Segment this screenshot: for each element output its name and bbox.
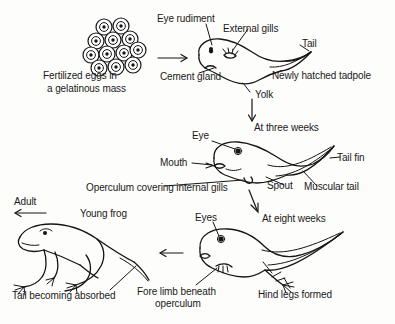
eggs-caption-line1: Fertilized eggs in [43, 70, 117, 82]
young-frog-figure [14, 224, 149, 295]
egg-mass-group [83, 18, 146, 76]
label-eye-rudiment: Eye rudiment [157, 13, 215, 25]
label-eyes: Eyes [195, 212, 217, 224]
arrow-eight-weeks-to-young-frog-icon [160, 250, 183, 257]
external-gills-tuft [223, 48, 238, 58]
egg-12 [125, 57, 141, 73]
label-tail: Tail [302, 38, 317, 50]
label-eye: Eye [192, 130, 209, 142]
label-external-gills: External gills [223, 23, 278, 35]
eggs-caption-line2: a gelatinous mass [47, 83, 126, 95]
label-yolk: Yolk [255, 89, 273, 101]
label-cement-gland: Cement gland [160, 71, 221, 83]
label-adult: Adult [14, 196, 36, 208]
label-mouth: Mouth [160, 157, 187, 169]
frog-life-cycle-diagram: Fertilized eggs in a gelatinous mass Eye… [0, 0, 395, 324]
label-at-three-weeks: At three weeks [254, 122, 319, 134]
label-operculum-covering-internal-gills: Operculum covering internal gills [86, 182, 228, 194]
arrow-hatchling-to-three-weeks-icon [249, 99, 256, 121]
label-spout: Spout [267, 180, 293, 192]
young-frog-leader-lines [110, 266, 136, 290]
egg-9 [130, 42, 146, 58]
label-tail-fin: Tail fin [337, 152, 365, 164]
arrow-young-frog-to-adult-icon [15, 210, 46, 217]
arrow-three-weeks-to-eight-weeks-icon [249, 190, 258, 212]
label-hind-legs-formed: Hind legs formed [258, 289, 332, 301]
arrow-eggs-to-hatchling-icon [158, 55, 187, 62]
label-fore-limb-line1: Fore limb beneath [137, 286, 216, 298]
diagram-artwork [0, 0, 395, 324]
label-at-eight-weeks: At eight weeks [262, 213, 326, 225]
label-young-frog: Young frog [80, 208, 127, 220]
label-newly-hatched-tadpole: Newly hatched tadpole [272, 70, 371, 82]
label-tail-becoming-absorbed: Tail becoming absorbed [12, 290, 115, 302]
eight-weeks-tadpole-figure [200, 229, 343, 293]
label-muscular-tail: Muscular tail [304, 181, 359, 193]
label-fore-limb-line2: operculum [155, 298, 201, 310]
